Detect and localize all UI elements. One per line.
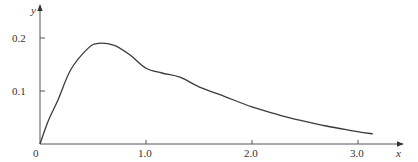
x-tick-label: 0 xyxy=(33,147,39,159)
y-tick-label: 0.1 xyxy=(12,85,26,97)
x-tick-label: 1.0 xyxy=(138,147,152,159)
x-axis-label: x xyxy=(395,147,401,159)
x-ticks: 01.02.03.0 xyxy=(33,140,364,159)
x-tick-label: 3.0 xyxy=(350,147,364,159)
data-curve xyxy=(40,43,373,144)
y-axis-label: y xyxy=(30,4,36,16)
y-tick-label: 0.2 xyxy=(12,32,26,44)
x-tick-label: 2.0 xyxy=(244,147,258,159)
line-chart: 01.02.03.0 x 0.10.2 y xyxy=(0,0,418,162)
x-axis: 01.02.03.0 x xyxy=(33,140,403,159)
y-axis: 0.10.2 y xyxy=(12,4,45,144)
